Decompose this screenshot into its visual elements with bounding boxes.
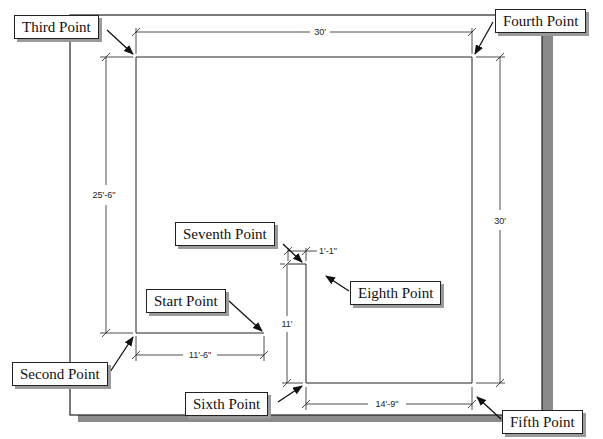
dim-left-label: 25'-6" [93, 190, 116, 200]
callout-second-point: Second Point [12, 362, 108, 386]
dim-bottom-right-label: 14'-9" [376, 399, 399, 409]
callout-third-point: Third Point [14, 15, 99, 39]
dim-right-label: 30' [494, 216, 506, 226]
callout-start-point: Start Point [146, 289, 226, 313]
dim-top-label: 30' [314, 27, 326, 37]
callout-seventh-point: Seventh Point [175, 222, 275, 246]
callout-fifth-point: Fifth Point [502, 410, 583, 434]
dim-notch-label: 1'-1" [319, 246, 337, 256]
dim-inner-label: 11' [281, 319, 292, 329]
dim-bottom-left-label: 11'-6" [189, 350, 211, 360]
callout-eighth-point: Eighth Point [350, 281, 441, 305]
callout-fourth-point: Fourth Point [495, 9, 586, 33]
callout-sixth-point: Sixth Point [185, 392, 268, 416]
